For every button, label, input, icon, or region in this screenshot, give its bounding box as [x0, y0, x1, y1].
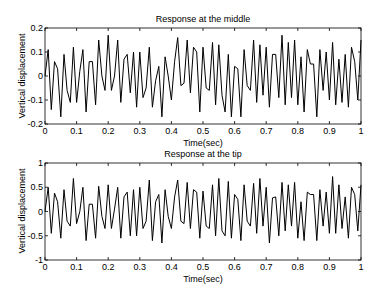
- y-tick-label: 0.2: [30, 23, 43, 33]
- x-tick-label: 0.5: [197, 126, 210, 136]
- x-tick-label: 0.3: [134, 126, 147, 136]
- y-tick-label: -0.5: [27, 231, 43, 241]
- plot-title: Response at the tip: [164, 149, 242, 159]
- x-tick-label: 0.7: [260, 126, 273, 136]
- y-tick-label: 1: [38, 158, 43, 168]
- y-tick-label: 0.5: [30, 182, 43, 192]
- x-tick-label: 0.9: [323, 262, 336, 272]
- x-axis-label: Time(sec): [183, 274, 223, 284]
- y-axis-label: Vertical displacement: [17, 33, 27, 119]
- plot-title: Response at the middle: [156, 14, 251, 24]
- x-tick-label: 0: [42, 262, 47, 272]
- y-tick-label: 0.1: [30, 47, 43, 57]
- y-tick-label: -0.1: [27, 95, 43, 105]
- x-tick-label: 0.4: [165, 126, 178, 136]
- x-tick-label: 0.3: [134, 262, 147, 272]
- figure: Response at the middle 00.10.20.30.40.50…: [0, 0, 381, 292]
- x-axis-label: Time(sec): [183, 138, 223, 148]
- x-tick-label: 0: [42, 126, 47, 136]
- x-tick-label: 0.2: [102, 262, 115, 272]
- y-axis-label: Vertical displacement: [17, 168, 27, 254]
- x-tick-label: 0.6: [228, 262, 241, 272]
- x-tick-label: 0.1: [70, 126, 83, 136]
- y-tick-label: 0: [38, 71, 43, 81]
- x-tick-label: 0.5: [197, 262, 210, 272]
- x-tick-label: 1: [358, 262, 363, 272]
- y-tick-label: -1: [35, 255, 43, 265]
- x-tick-label: 1: [358, 126, 363, 136]
- x-tick-label: 0.9: [323, 126, 336, 136]
- plot-tip: Response at the tip 00.10.20.30.40.50.60…: [17, 149, 364, 284]
- axes-frame: [45, 163, 361, 260]
- y-tick-label: 0: [38, 207, 43, 217]
- plot-middle: Response at the middle 00.10.20.30.40.50…: [17, 14, 364, 148]
- x-tick-label: 0.8: [292, 262, 305, 272]
- x-tick-label: 0.8: [292, 126, 305, 136]
- x-tick-label: 0.7: [260, 262, 273, 272]
- x-tick-label: 0.2: [102, 126, 115, 136]
- x-tick-label: 0.4: [165, 262, 178, 272]
- x-tick-label: 0.6: [228, 126, 241, 136]
- x-tick-label: 0.1: [70, 262, 83, 272]
- axes-frame: [45, 28, 361, 124]
- y-tick-label: -0.2: [27, 119, 43, 129]
